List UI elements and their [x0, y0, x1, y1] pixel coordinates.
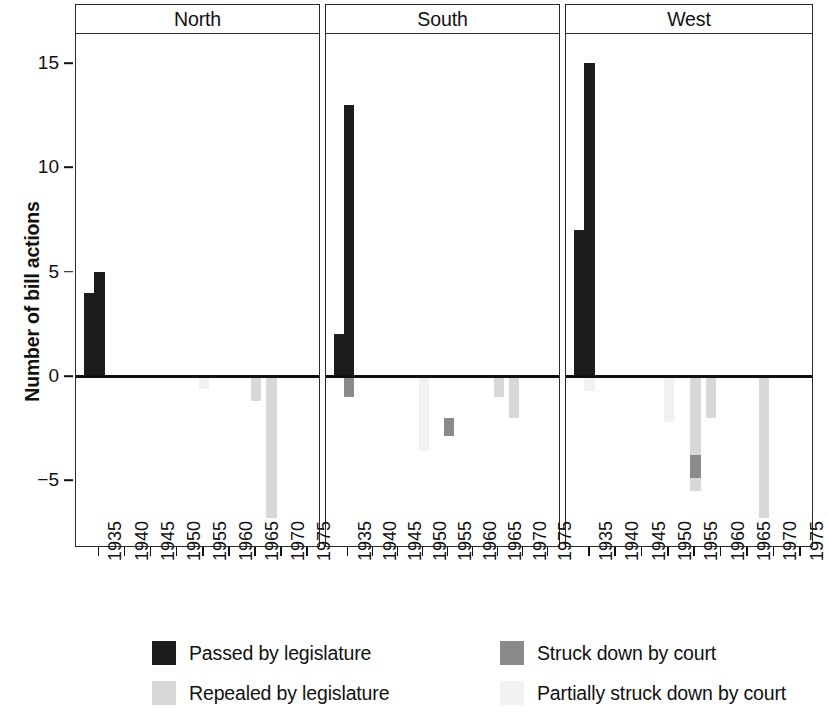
- bar: [344, 376, 354, 397]
- bar: [266, 376, 276, 518]
- x-tick-mark: [641, 547, 643, 556]
- x-tick-mark: [497, 547, 499, 556]
- y-tick-label: 5: [17, 261, 59, 283]
- x-tick-mark: [472, 547, 474, 556]
- x-tick-mark: [280, 547, 282, 556]
- y-tick-mark: [64, 62, 73, 64]
- x-tick-mark: [347, 547, 349, 556]
- x-tick-mark: [124, 547, 126, 556]
- y-tick-mark: [64, 271, 73, 273]
- legend-swatch-icon: [152, 681, 176, 705]
- bar: [690, 455, 701, 478]
- legend-item: Passed by legislature: [152, 641, 371, 665]
- bar: [444, 418, 454, 437]
- legend-label: Repealed by legislature: [189, 682, 389, 705]
- x-tick-label: 1975: [314, 521, 335, 561]
- y-tick-label: 15: [17, 52, 59, 74]
- panel-strip-label: West: [667, 8, 711, 31]
- x-tick-mark: [176, 547, 178, 556]
- bar: [664, 376, 675, 422]
- x-tick-mark: [667, 547, 669, 556]
- y-tick-label: −5: [17, 469, 59, 491]
- bar: [584, 63, 595, 376]
- bar: [759, 376, 770, 518]
- panel-south: [325, 34, 560, 547]
- x-tick-mark: [202, 547, 204, 556]
- bar: [706, 376, 717, 418]
- legend-swatch-icon: [152, 641, 176, 665]
- x-tick-mark: [614, 547, 616, 556]
- bar: [509, 376, 519, 418]
- x-tick-mark: [447, 547, 449, 556]
- panel-strip-north: North: [75, 4, 320, 34]
- x-tick-mark: [522, 547, 524, 556]
- legend-item: Partially struck down by court: [500, 681, 786, 705]
- y-tick-mark: [64, 375, 73, 377]
- zero-baseline: [566, 375, 812, 378]
- y-tick-label: 0: [17, 365, 59, 387]
- x-tick-mark: [150, 547, 152, 556]
- x-tick-mark: [254, 547, 256, 556]
- legend-label: Passed by legislature: [189, 642, 371, 665]
- x-tick-mark: [547, 547, 549, 556]
- x-tick-mark: [98, 547, 100, 556]
- legend-label: Partially struck down by court: [537, 682, 786, 705]
- chart-legend: Passed by legislatureStruck down by cour…: [152, 641, 812, 713]
- x-tick-mark: [422, 547, 424, 556]
- legend-swatch-icon: [500, 681, 524, 705]
- y-axis-title: Number of bill actions: [21, 172, 44, 432]
- panel-strip-label: South: [417, 8, 467, 31]
- x-tick-mark: [799, 547, 801, 556]
- bar: [419, 376, 429, 451]
- x-tick-mark: [372, 547, 374, 556]
- x-tick-mark: [693, 547, 695, 556]
- panel-strip-west: West: [565, 4, 813, 34]
- legend-item: Repealed by legislature: [152, 681, 389, 705]
- legend-swatch-icon: [500, 641, 524, 665]
- x-tick-mark: [746, 547, 748, 556]
- x-tick-label: 1975: [555, 521, 576, 561]
- y-tick-mark: [64, 167, 73, 169]
- bar: [494, 376, 504, 397]
- legend-label: Struck down by court: [537, 642, 716, 665]
- y-tick-label: 10: [17, 156, 59, 178]
- bar: [94, 272, 104, 376]
- bar: [334, 334, 344, 376]
- zero-baseline: [326, 375, 559, 378]
- panel-strip-label: North: [174, 8, 221, 31]
- bar: [574, 230, 585, 376]
- x-tick-mark: [228, 547, 230, 556]
- x-tick-mark: [720, 547, 722, 556]
- x-tick-mark: [588, 547, 590, 556]
- x-tick-mark: [773, 547, 775, 556]
- x-tick-mark: [306, 547, 308, 556]
- bar: [84, 293, 94, 376]
- x-tick-label: 1975: [807, 521, 828, 561]
- bar: [584, 376, 595, 391]
- bar: [251, 376, 261, 401]
- zero-baseline: [76, 375, 319, 378]
- bar: [199, 376, 209, 389]
- legend-item: Struck down by court: [500, 641, 716, 665]
- panel-north: [75, 34, 320, 547]
- panel-west: [565, 34, 813, 547]
- panel-strip-south: South: [325, 4, 560, 34]
- bar: [344, 105, 354, 376]
- x-tick-mark: [397, 547, 399, 556]
- y-tick-mark: [64, 479, 73, 481]
